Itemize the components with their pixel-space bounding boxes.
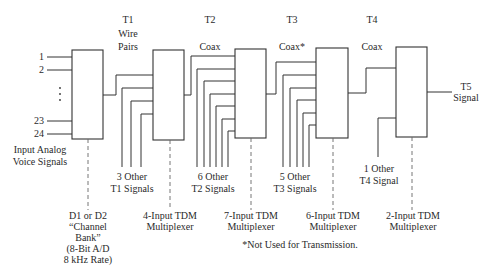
- footnote: *Not Used for Transmission.: [242, 239, 358, 250]
- channel-bank-caption-3: Bank”: [75, 232, 101, 243]
- mux-6-input-block: [316, 48, 348, 138]
- mux-7-input-block: [235, 49, 266, 138]
- t2-other-wire-6: [228, 131, 235, 167]
- t1-other-wire-1: [122, 88, 153, 167]
- level-t2-medium: Coax: [199, 41, 220, 52]
- mux-4-caption-1: 4-Input TDM: [143, 210, 197, 221]
- t3-other-signals-line1: 5 Other: [280, 171, 311, 182]
- mux-7-caption-2: Multiplexer: [227, 221, 275, 232]
- t3-other-wire-5: [309, 125, 316, 167]
- t4-other-wire-1: [378, 118, 396, 157]
- mux-4-input-block: [153, 50, 184, 140]
- t1-main-wire: [103, 75, 153, 95]
- level-t3-medium: Coax*: [279, 41, 305, 52]
- input-line-1-label: 1: [39, 51, 44, 62]
- channel-bank-caption-2: “Channel: [69, 221, 107, 232]
- t2-other-signals-line2: T2 Signals: [191, 183, 234, 194]
- mux-6-caption-2: Multiplexer: [309, 221, 357, 232]
- mux-2-input-block: [396, 47, 427, 137]
- input-line-24-label: 24: [34, 128, 44, 139]
- t3-other-wire-1: [283, 75, 316, 167]
- t4-other-signals-line1: 1 Other: [364, 163, 395, 174]
- level-t4-medium: Coax: [361, 41, 382, 52]
- mux-6-caption-1: 6-Input TDM: [306, 210, 360, 221]
- level-t1-medium-line1: Wire: [118, 28, 138, 39]
- channel-bank-caption-5: 8 kHz Rate): [64, 254, 112, 266]
- ellipsis-dots: [59, 87, 61, 101]
- mux-4-caption-2: Multiplexer: [146, 221, 194, 232]
- level-t4-label: T4: [366, 14, 377, 25]
- t1-other-wire-2: [131, 101, 153, 167]
- t5-output-label-line2: Signal: [453, 92, 479, 103]
- t3-other-wire-3: [297, 100, 316, 167]
- t2-other-signals-line1: 6 Other: [198, 171, 229, 182]
- t3-main-wire: [266, 62, 316, 94]
- input-line-2-label: 2: [39, 64, 44, 75]
- t1-other-signals-line2: T1 Signals: [110, 183, 153, 194]
- mux-2-caption-1: 2-Input TDM: [386, 210, 440, 221]
- t2-main-wire: [184, 56, 235, 95]
- level-t3-label: T3: [286, 14, 297, 25]
- input-line-23-label: 23: [34, 115, 44, 126]
- mux-7-caption-1: 7-Input TDM: [224, 210, 278, 221]
- mux-2-caption-2: Multiplexer: [389, 221, 437, 232]
- t4-other-signals-line2: T4 Signal: [359, 175, 398, 186]
- input-caption-line1: Input Analog: [14, 144, 67, 155]
- channel-bank-caption-1: D1 or D2: [69, 210, 107, 221]
- t1-other-wire-3: [141, 114, 153, 167]
- t2-other-wire-4: [216, 106, 235, 167]
- t3-other-signals-line2: T3 Signals: [273, 183, 316, 194]
- tdm-hierarchy-diagram: T1 Wire Pairs T2 Coax T3 Coax* T4 Coax 1…: [0, 0, 488, 273]
- channel-bank-block: [72, 50, 103, 139]
- t1-other-signals-line1: 3 Other: [117, 171, 148, 182]
- level-t2-label: T2: [204, 14, 215, 25]
- t4-main-wire: [348, 68, 396, 93]
- level-t1-medium-line2: Pairs: [118, 41, 138, 52]
- level-t1-label: T1: [122, 14, 133, 25]
- input-caption-line2: Voice Signals: [13, 156, 68, 167]
- t5-output-label-line1: T5: [460, 81, 471, 92]
